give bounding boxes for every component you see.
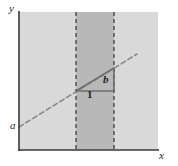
run-label: 1	[87, 89, 93, 100]
x-axis-label: x	[159, 150, 164, 161]
figure-canvas	[0, 0, 178, 166]
y-intercept-label: a	[10, 120, 16, 131]
y-axis-label: y	[9, 3, 14, 14]
rise-label: b	[103, 74, 109, 85]
linear-function-figure: y x a b 1	[0, 0, 178, 166]
